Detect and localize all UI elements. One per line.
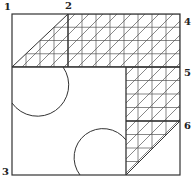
point-label-6: 6 — [184, 121, 191, 131]
geometry-diagram — [0, 0, 195, 183]
arc-left — [12, 67, 69, 116]
point-label-1: 1 — [4, 2, 11, 12]
arc-bottom — [74, 129, 126, 175]
hatched-region — [0, 14, 195, 175]
point-label-3: 3 — [2, 167, 9, 177]
diagram-canvas — [0, 0, 195, 183]
point-label-5: 5 — [184, 68, 191, 78]
point-label-4: 4 — [184, 17, 191, 27]
point-label-2: 2 — [65, 1, 72, 11]
